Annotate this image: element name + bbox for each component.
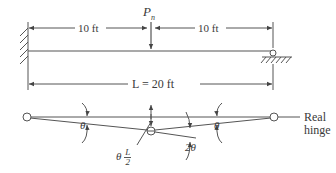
right-angle-label: θ [214,120,219,131]
right-span-label: 10 ft [198,23,218,34]
center-angle-label: 2θ [185,142,196,153]
real-hinge-label: Real hinge [304,111,331,137]
total-length-label: L = 20 ft [132,78,174,90]
left-angle-label: θ [80,120,85,131]
load-label: Pn [143,5,155,22]
left-span-label: 10 ft [78,23,98,34]
deflection-label: θ L 2 [116,148,131,167]
fixed-support-icon [20,22,28,90]
roller-support-icon [261,22,292,90]
left-hinge-icon [23,113,31,121]
real-hinge-icon [270,113,278,121]
